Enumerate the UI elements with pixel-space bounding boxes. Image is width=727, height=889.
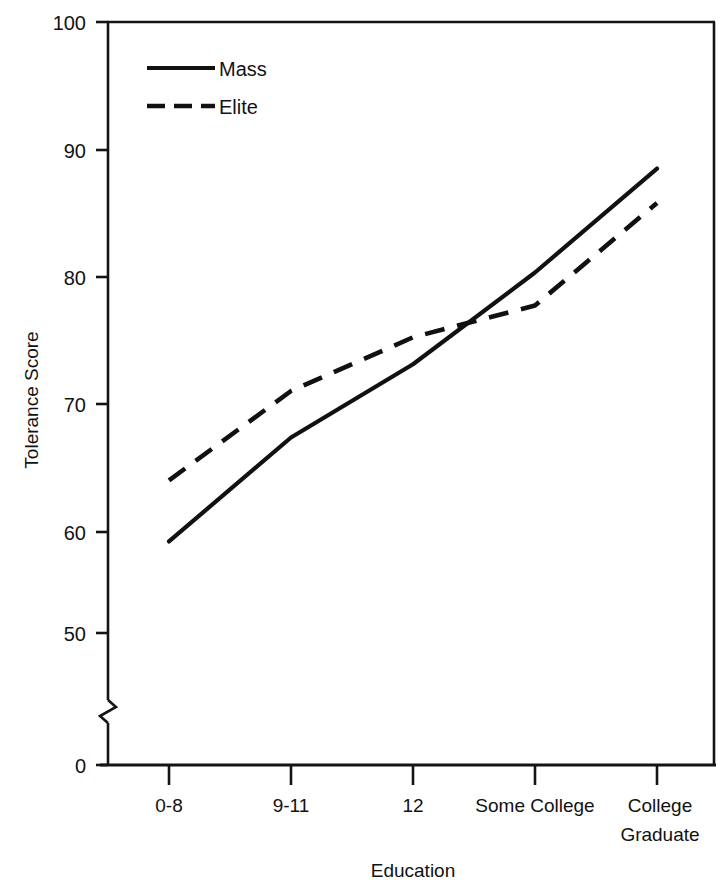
chart-axes bbox=[100, 22, 716, 766]
y-tick-label-60: 60 bbox=[64, 522, 86, 544]
x-axis-title: Education bbox=[371, 860, 456, 881]
y-axis-title: Tolerance Score bbox=[21, 331, 42, 468]
line-chart-svg: 100 90 80 70 60 50 0 Tolerance Score 0-8… bbox=[0, 0, 727, 889]
x-tick-label-9-11: 9-11 bbox=[273, 795, 310, 816]
y-tick-label-90: 90 bbox=[64, 140, 86, 162]
y-tick-label-0: 0 bbox=[75, 755, 86, 777]
y-tick-label-70: 70 bbox=[64, 394, 86, 416]
x-tick-label-graduate: Graduate bbox=[620, 824, 699, 845]
y-tick-label-80: 80 bbox=[64, 267, 86, 289]
y-tick-labels: 100 90 80 70 60 50 0 bbox=[53, 12, 86, 777]
legend-label-mass: Mass bbox=[219, 58, 267, 80]
series-group bbox=[169, 169, 657, 542]
chart-legend: Mass Elite bbox=[147, 58, 267, 118]
chart-figure: 100 90 80 70 60 50 0 Tolerance Score 0-8… bbox=[0, 0, 727, 889]
series-line-mass bbox=[169, 169, 657, 542]
y-tick-marks bbox=[96, 22, 108, 765]
y-tick-label-50: 50 bbox=[64, 623, 86, 645]
series-line-elite bbox=[169, 203, 657, 480]
x-tick-marks bbox=[169, 765, 657, 785]
legend-label-elite: Elite bbox=[219, 96, 258, 118]
x-tick-label-12: 12 bbox=[402, 795, 423, 816]
y-tick-label-100: 100 bbox=[53, 12, 86, 34]
x-tick-label-college: College bbox=[628, 795, 692, 816]
x-tick-label-some-college: Some College bbox=[475, 795, 594, 816]
axis-break-marker bbox=[100, 700, 116, 723]
x-tick-labels: 0-8 9-11 12 Some College College Graduat… bbox=[155, 795, 699, 845]
x-tick-label-0-8: 0-8 bbox=[155, 795, 182, 816]
